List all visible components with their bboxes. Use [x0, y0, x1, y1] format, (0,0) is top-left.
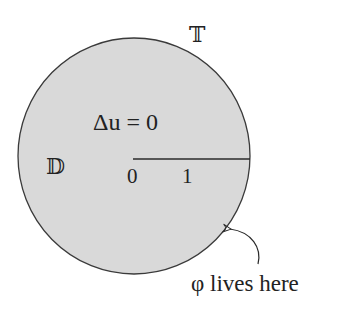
origin-label: 0 — [127, 164, 138, 188]
boundary-data-annotation: φ lives here — [191, 271, 299, 296]
one-label: 1 — [182, 164, 193, 188]
laplace-equation-label: Δu = 0 — [93, 109, 158, 135]
boundary-pointer-arrow — [230, 229, 259, 264]
diagram-canvas: Δu = 0 𝔻 𝕋 0 1 φ lives here — [0, 0, 337, 314]
circle-label: 𝕋 — [189, 22, 206, 47]
disc-label: 𝔻 — [46, 154, 65, 179]
